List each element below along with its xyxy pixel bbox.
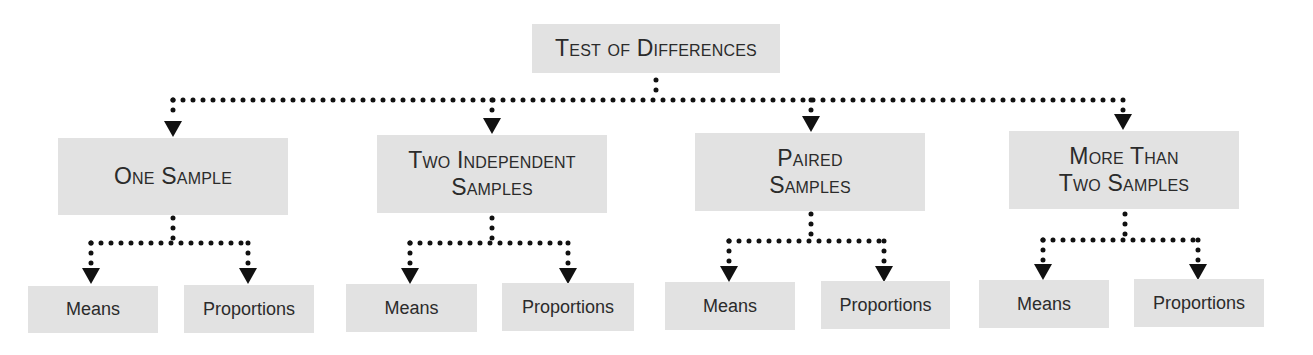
- leaf-label: Proportions: [522, 297, 614, 318]
- category-node-two-independent-samples: Two Independent Samples: [377, 135, 607, 213]
- category-label: One Sample: [114, 163, 232, 190]
- category-node-paired-samples: Paired Samples: [695, 133, 925, 211]
- category-label-line1: Two Independent: [408, 147, 576, 174]
- root-node-test-of-differences: Test of Differences: [532, 24, 780, 73]
- leaf-label: Means: [1017, 294, 1071, 315]
- leaf-label: Means: [703, 296, 757, 317]
- leaf-label: Means: [66, 299, 120, 320]
- leaf-label: Proportions: [203, 299, 295, 320]
- leaf-node-proportions: Proportions: [821, 281, 950, 329]
- leaf-label: Proportions: [1153, 293, 1245, 314]
- leaf-node-means: Means: [28, 286, 158, 333]
- category-label-line1: More Than: [1069, 143, 1178, 170]
- category-label-line2: Samples: [769, 172, 851, 199]
- category-label-line2: Samples: [451, 174, 533, 201]
- leaf-label: Means: [384, 298, 438, 319]
- leaf-node-means: Means: [979, 280, 1109, 328]
- category-label-line1: Paired: [777, 145, 842, 172]
- category-label-line2: Two Samples: [1059, 170, 1189, 197]
- leaf-node-means: Means: [665, 282, 795, 330]
- root-node-label: Test of Differences: [555, 35, 757, 62]
- leaf-node-proportions: Proportions: [502, 283, 634, 331]
- leaf-node-proportions: Proportions: [184, 285, 314, 333]
- leaf-label: Proportions: [839, 295, 931, 316]
- category-node-one-sample: One Sample: [58, 138, 288, 215]
- category-node-more-than-two-samples: More Than Two Samples: [1009, 131, 1239, 209]
- leaf-node-proportions: Proportions: [1134, 279, 1264, 327]
- leaf-node-means: Means: [346, 284, 477, 332]
